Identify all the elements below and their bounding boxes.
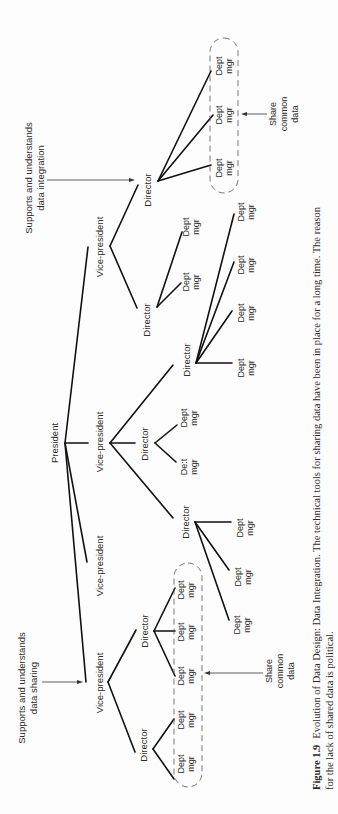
svg-text:data: data — [286, 662, 296, 680]
svg-text:mgr: mgr — [246, 257, 256, 273]
dept-mgr: Deptmgr — [176, 580, 196, 600]
dept-mgr: Deptmgr — [214, 56, 234, 76]
dept-mgr: Deptmgr — [233, 567, 253, 587]
edge-dir6-dm1 — [154, 588, 175, 631]
dept-mgr: Deptmgr — [181, 272, 201, 292]
svg-text:mgr: mgr — [224, 107, 234, 123]
edge-dir4-dm2 — [155, 443, 176, 462]
edge-president-vp3 — [65, 443, 87, 562]
svg-text:Dept: Dept — [236, 303, 246, 323]
svg-text:Dept: Dept — [179, 408, 189, 428]
dept-mgr-labels: Deptmgr Deptmgr Deptmgr Deptmgr Deptmgr … — [176, 56, 256, 774]
node-vice-president: Vice-president — [94, 216, 105, 277]
node-labels: President Vice-president Vice-president … — [49, 173, 192, 761]
edge-vp4-dir6 — [108, 630, 136, 682]
svg-text:Dept: Dept — [176, 622, 186, 642]
svg-text:Dept: Dept — [176, 666, 186, 686]
svg-text:Dept: Dept — [232, 615, 242, 635]
edge-vp4-dir7 — [108, 682, 135, 752]
edge-dir7-dm2 — [153, 749, 174, 779]
org-chart-diagram: President Vice-president Vice-president … — [0, 0, 338, 814]
arrowhead-icon — [204, 671, 210, 675]
dept-mgr: Deptmgr — [214, 158, 234, 178]
annotation-share-common-data-bottom: Share common data — [264, 654, 296, 689]
node-president: President — [49, 423, 60, 463]
svg-text:mgr: mgr — [186, 712, 196, 728]
dept-mgr: Deptmgr — [236, 303, 256, 323]
svg-text:data integration: data integration — [35, 145, 46, 211]
svg-text:mgr: mgr — [243, 569, 253, 585]
node-director: Director — [142, 173, 153, 206]
arrowhead-icon — [77, 680, 83, 684]
dept-mgr: Deptmgr — [176, 754, 196, 774]
node-director: Director — [181, 343, 192, 376]
edge-dir2-dm2 — [157, 232, 182, 307]
svg-text:Supports and understands: Supports and understands — [23, 122, 34, 234]
svg-text:Dept: Dept — [181, 217, 191, 237]
svg-text:mgr: mgr — [245, 520, 255, 536]
svg-text:Supports and understands: Supports and understands — [16, 632, 27, 744]
svg-text:Share: Share — [268, 102, 278, 126]
svg-text:Dept: Dept — [236, 202, 246, 222]
dept-mgr: Deptmgr — [179, 408, 199, 428]
svg-text:mgr: mgr — [246, 305, 256, 321]
edge-dir3-dm3 — [196, 262, 234, 363]
dept-mgr: Deptmgr — [176, 666, 196, 686]
node-director: Director — [139, 427, 150, 460]
edge-dir3-dm4 — [196, 214, 234, 363]
svg-text:Share: Share — [264, 659, 274, 683]
svg-text:mgr: mgr — [246, 204, 256, 220]
edge-dir3-dm2 — [196, 311, 232, 363]
edge-dir7-dm1 — [153, 719, 174, 749]
dept-mgr: Deptmgr — [176, 622, 196, 642]
svg-text:mgr: mgr — [186, 668, 196, 684]
annotation-sharing: Supports and understands data sharing — [16, 632, 39, 744]
svg-text:mgr: mgr — [189, 459, 199, 475]
svg-text:common: common — [275, 654, 285, 689]
svg-text:Dept: Dept — [236, 358, 246, 378]
edge-dir4-dm1 — [155, 425, 177, 443]
edge-dir1-dm1 — [158, 165, 211, 181]
dept-mgr: Deptmgr — [232, 615, 252, 635]
dept-mgr: Deptmgr — [236, 358, 256, 378]
svg-text:Dept: Dept — [233, 567, 243, 587]
svg-text:Dept: Dept — [235, 518, 245, 538]
dept-mgr: Deptmgr — [236, 202, 256, 222]
figure-caption: Figure 1.9Evolution of Data Design: Data… — [311, 206, 335, 790]
arrowhead-icon — [129, 178, 135, 182]
edge-president-vp1 — [65, 247, 88, 443]
svg-text:mgr: mgr — [224, 58, 234, 74]
dept-mgr: De:tmgr — [179, 458, 199, 475]
svg-text:mgr: mgr — [189, 410, 199, 426]
dept-mgr: Deptmgr — [236, 255, 256, 275]
arrowhead-icon — [241, 112, 247, 116]
svg-text:Dept: Dept — [176, 754, 186, 774]
annotation-arrows — [42, 112, 267, 684]
rotated-book-page: President Vice-president Vice-president … — [0, 0, 338, 814]
node-vice-president: Vice-president — [94, 535, 105, 596]
edge-dir6-dm3 — [154, 631, 175, 676]
dept-mgr: Deptmgr — [181, 217, 201, 237]
svg-text:mgr: mgr — [186, 756, 196, 772]
node-director: Director — [141, 303, 152, 336]
svg-text:De:t: De:t — [179, 458, 189, 475]
dept-mgr: Deptmgr — [214, 105, 234, 125]
annotation-share-common-data-top: Share common data — [268, 97, 300, 132]
svg-text:mgr: mgr — [186, 624, 196, 640]
svg-text:data sharing: data sharing — [28, 662, 39, 714]
svg-text:mgr: mgr — [191, 274, 201, 290]
svg-text:mgr: mgr — [186, 582, 196, 598]
edge-dir5-dm3 — [195, 522, 229, 620]
svg-text:Dept: Dept — [214, 105, 224, 125]
node-vice-president: Vice-president — [94, 652, 105, 713]
svg-text:Dept: Dept — [181, 272, 191, 292]
svg-text:Dept: Dept — [214, 56, 224, 76]
svg-text:mgr: mgr — [242, 617, 252, 633]
edge-dir5-dm2 — [195, 522, 229, 570]
svg-text:mgr: mgr — [191, 219, 201, 235]
node-director: Director — [139, 614, 150, 647]
svg-text:Dept: Dept — [236, 255, 246, 275]
edge-vp1-dir1 — [110, 185, 138, 246]
svg-text:mgr: mgr — [224, 160, 234, 176]
node-director: Director — [138, 728, 149, 761]
